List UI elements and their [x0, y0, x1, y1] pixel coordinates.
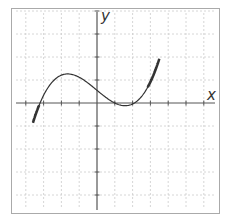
cubic-function-graph: y x — [0, 0, 232, 222]
x-axis-label: x — [206, 86, 216, 104]
y-axis-label: y — [100, 7, 111, 25]
plot-border — [12, 9, 220, 214]
